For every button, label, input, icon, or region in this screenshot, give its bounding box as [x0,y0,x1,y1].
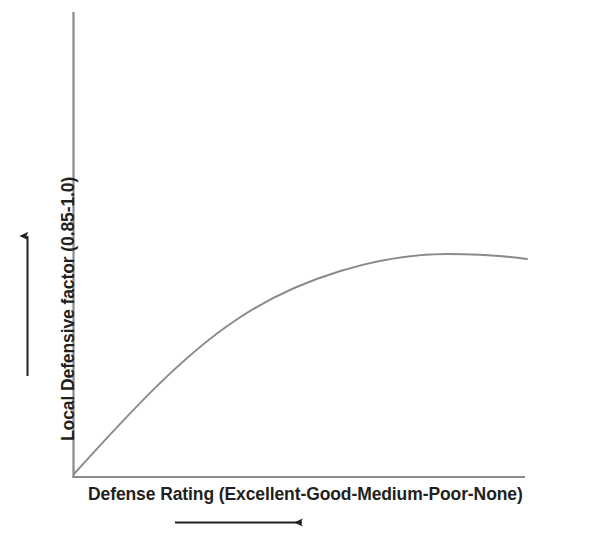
data-curve [74,254,527,474]
x-axis-label: Defense Rating (Excellent-Good-Medium-Po… [88,483,523,505]
y-axis-label: Local Defensive factor (0.85-1.0) [57,177,79,441]
plot-canvas [0,0,600,553]
chart-figure: Local Defensive factor (0.85-1.0) Defens… [0,0,600,553]
